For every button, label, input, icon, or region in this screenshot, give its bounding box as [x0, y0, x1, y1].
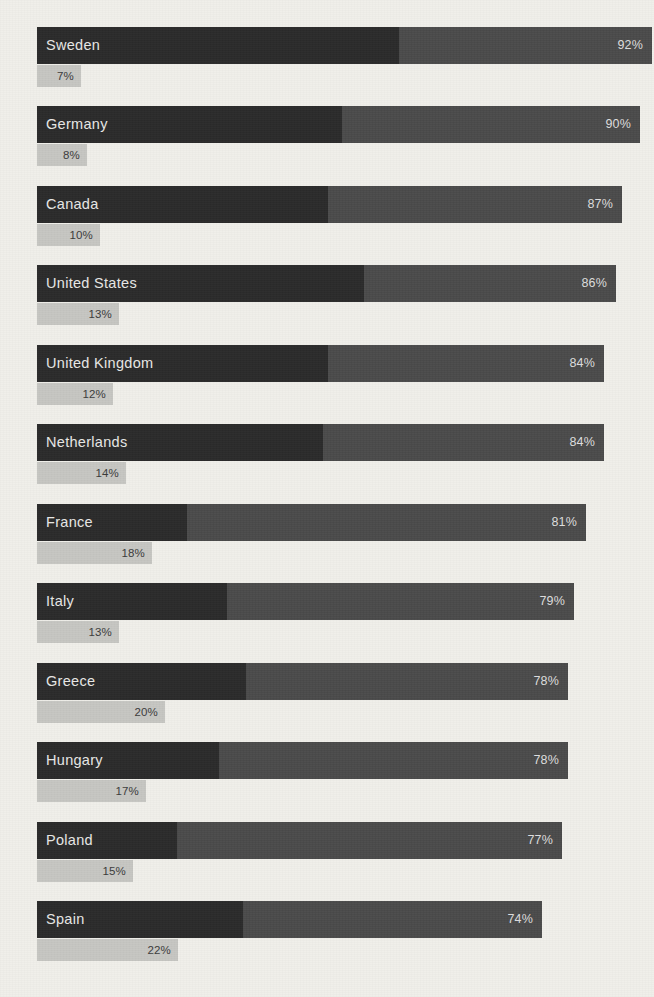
main-value-label: 90%: [605, 106, 631, 143]
sub-value-label: 22%: [147, 939, 171, 961]
sub-bar: 17%: [37, 780, 146, 802]
main-value-label: 87%: [587, 186, 613, 223]
sub-bar: 13%: [37, 621, 119, 643]
main-value-label: 74%: [507, 901, 533, 938]
main-value-label: 84%: [569, 345, 595, 382]
main-bar: Netherlands84%: [37, 424, 604, 461]
bar-chart: Sweden92%7%Germany90%8%Canada87%10%Unite…: [0, 0, 654, 997]
sub-value-label: 17%: [115, 780, 139, 802]
main-bar: Greece78%: [37, 663, 568, 700]
main-bar: Spain74%: [37, 901, 542, 938]
main-value-label: 81%: [551, 504, 577, 541]
main-value-label: 92%: [617, 27, 643, 64]
country-label: United States: [46, 265, 137, 302]
main-value-label: 79%: [539, 583, 565, 620]
sub-bar: 22%: [37, 939, 178, 961]
main-value-label: 84%: [569, 424, 595, 461]
country-label: Spain: [46, 901, 85, 938]
main-bar: Sweden92%: [37, 27, 652, 64]
country-label: Germany: [46, 106, 108, 143]
sub-bar: 20%: [37, 701, 165, 723]
country-label: France: [46, 504, 93, 541]
sub-bar: 8%: [37, 144, 87, 166]
sub-value-label: 13%: [88, 303, 112, 325]
sub-bar: 18%: [37, 542, 152, 564]
sub-bar: 14%: [37, 462, 126, 484]
sub-bar: 10%: [37, 224, 100, 246]
sub-bar: 7%: [37, 65, 81, 87]
country-label: Greece: [46, 663, 95, 700]
country-label: Hungary: [46, 742, 103, 779]
main-value-label: 78%: [533, 742, 559, 779]
main-bar: United States86%: [37, 265, 616, 302]
country-label: Netherlands: [46, 424, 128, 461]
main-bar: United Kingdom84%: [37, 345, 604, 382]
country-label: United Kingdom: [46, 345, 153, 382]
main-bar: Poland77%: [37, 822, 562, 859]
sub-value-label: 7%: [57, 65, 74, 87]
main-value-label: 86%: [581, 265, 607, 302]
main-bar: France81%: [37, 504, 586, 541]
main-value-label: 77%: [527, 822, 553, 859]
sub-value-label: 13%: [88, 621, 112, 643]
country-label: Italy: [46, 583, 74, 620]
sub-value-label: 10%: [69, 224, 93, 246]
sub-bar: 15%: [37, 860, 133, 882]
sub-value-label: 12%: [82, 383, 106, 405]
sub-value-label: 20%: [134, 701, 158, 723]
main-bar: Hungary78%: [37, 742, 568, 779]
country-label: Sweden: [46, 27, 100, 64]
sub-value-label: 15%: [102, 860, 126, 882]
sub-value-label: 14%: [95, 462, 119, 484]
sub-value-label: 8%: [63, 144, 80, 166]
sub-bar: 12%: [37, 383, 113, 405]
main-bar: Canada87%: [37, 186, 622, 223]
main-bar: Italy79%: [37, 583, 574, 620]
main-value-label: 78%: [533, 663, 559, 700]
sub-value-label: 18%: [121, 542, 145, 564]
country-label: Canada: [46, 186, 99, 223]
country-label: Poland: [46, 822, 93, 859]
sub-bar: 13%: [37, 303, 119, 325]
main-bar: Germany90%: [37, 106, 640, 143]
